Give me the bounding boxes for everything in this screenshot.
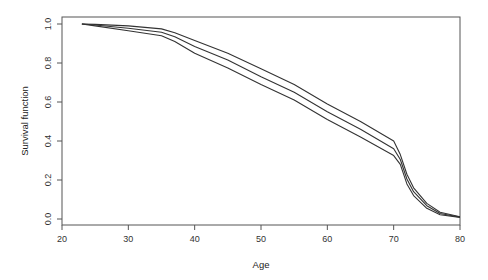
x-tick-label: 50 (256, 234, 266, 244)
x-axis-title: Age (253, 259, 270, 270)
survival-chart: 20304050607080 0.00.20.40.60.81.0 Age Su… (0, 0, 488, 280)
plot-frame (62, 17, 460, 225)
x-tick-label: 20 (57, 234, 67, 244)
x-tick-label: 60 (322, 234, 332, 244)
x-tick-label: 30 (123, 234, 133, 244)
curve-1 (82, 24, 460, 217)
x-axis: 20304050607080 (57, 225, 465, 244)
y-tick-label: 0.2 (43, 174, 53, 187)
y-tick-label: 1.0 (43, 18, 53, 31)
y-tick-label: 0.6 (43, 96, 53, 109)
x-tick-label: 70 (389, 234, 399, 244)
x-tick-label: 40 (190, 234, 200, 244)
y-tick-label: 0.8 (43, 57, 53, 70)
y-axis: 0.00.20.40.60.81.0 (43, 18, 62, 226)
x-tick-label: 80 (455, 234, 465, 244)
y-tick-label: 0.4 (43, 135, 53, 148)
curve-0 (82, 24, 460, 217)
curve-2 (82, 24, 460, 217)
y-axis-title: Survival function (19, 86, 30, 156)
survival-curves (82, 24, 460, 217)
y-tick-label: 0.0 (43, 213, 53, 226)
